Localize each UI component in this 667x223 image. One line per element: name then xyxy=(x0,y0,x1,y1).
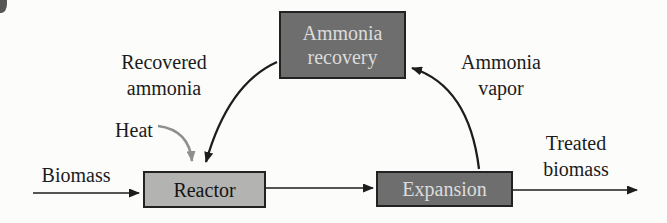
biomass-label: Biomass xyxy=(28,162,124,188)
recovered-ammonia-label: Recovered ammonia xyxy=(105,49,223,101)
node-label: Expansion xyxy=(402,177,486,201)
node-reactor: Reactor xyxy=(143,171,266,208)
node-label: Ammonia xyxy=(303,21,383,45)
node-expansion: Expansion xyxy=(376,171,513,207)
node-ammonia-recovery: Ammonia recovery xyxy=(279,11,406,79)
treated-biomass-label: Treated biomass xyxy=(527,130,625,182)
ammonia-vapor-label: Ammonia vapor xyxy=(447,49,555,101)
process-flow-diagram: Ammonia recovery Reactor Expansion Bioma… xyxy=(0,0,667,223)
heat-input-arrow xyxy=(158,126,192,161)
node-label: recovery xyxy=(308,45,378,69)
node-label: Reactor xyxy=(173,178,235,202)
heat-label: Heat xyxy=(108,117,160,143)
